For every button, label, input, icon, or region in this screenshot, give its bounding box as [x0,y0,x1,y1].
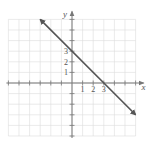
y-tick-label: 2 [64,58,68,67]
y-tick-label: 1 [64,68,68,77]
y-tick-label: 3 [64,47,68,56]
x-tick-label: 1 [81,85,85,94]
data-line [40,19,135,114]
coordinate-graph: 123123xy [0,0,152,142]
y-axis-label: y [62,9,67,19]
x-tick-label: 2 [91,85,95,94]
x-axis-label: x [141,82,146,92]
x-tick-label: 3 [102,85,106,94]
